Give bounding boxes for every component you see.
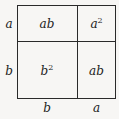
region-top-right-label: a2 [78,18,115,30]
region-top-right-exponent: 2 [98,16,103,25]
side-label-bottom-right: a [78,102,115,114]
side-label-bottom-left: b [17,102,77,114]
region-top-left-text: ab [40,17,55,31]
region-bottom-left-label: b2 [17,65,77,77]
side-label-left-top: a [4,18,14,30]
outer-border-top [17,5,116,6]
side-label-left-bottom: b [4,65,14,77]
region-top-right-text: a [90,17,97,31]
region-bottom-right-label: ab [78,65,115,77]
region-top-left-label: ab [17,18,77,30]
region-bottom-left-exponent: 2 [48,63,53,72]
region-bottom-right-text: ab [89,64,104,78]
horizontal-divider [17,41,116,42]
outer-border-bottom [17,98,116,99]
outer-border-right [115,5,116,99]
